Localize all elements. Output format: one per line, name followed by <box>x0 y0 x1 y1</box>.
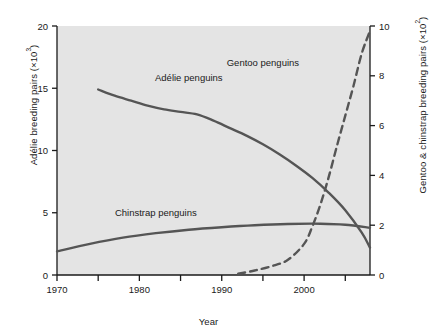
x-axis-tick-label: 1990 <box>211 284 232 295</box>
y-axis-right-tick-label: 4 <box>379 170 384 181</box>
y-axis-left-title-text: Adélie breeding pairs (×10 <box>28 52 39 166</box>
x-axis-tick-label: 2000 <box>294 284 315 295</box>
y-axis-right-title: Gentoo & chinstrap breeding pairs (×102) <box>412 0 430 230</box>
series-annotation-chinstrap-penguins: Chinstrap penguins <box>115 207 197 218</box>
y-axis-left-title-tail: ) <box>28 45 39 48</box>
series-annotation-ad-lie-penguins: Adélie penguins <box>155 72 223 83</box>
y-axis-left-tick-label: 5 <box>43 207 48 218</box>
y-axis-right-tick-label: 0 <box>379 270 384 281</box>
y-axis-right-title-text: Gentoo & chinstrap breeding pairs (×10 <box>417 24 428 194</box>
x-axis-title: Year <box>0 311 417 329</box>
y-axis-left-title: Adélie breeding pairs (×103) <box>23 15 41 195</box>
x-axis-tick-label: 1970 <box>46 284 67 295</box>
y-axis-right-title-exponent: 2 <box>414 20 421 24</box>
y-axis-right-tick-label: 8 <box>379 70 384 81</box>
x-axis-title-text: Year <box>199 316 219 327</box>
y-axis-right-tick-label: 10 <box>379 21 390 32</box>
y-axis-left-title-exponent: 3 <box>25 48 32 52</box>
y-axis-right-tick-label: 2 <box>379 220 384 231</box>
y-axis-right-tick-label: 6 <box>379 120 384 131</box>
y-axis-right-title-tail: ) <box>417 17 428 20</box>
series-annotation-gentoo-penguins: Gentoo penguins <box>227 57 300 68</box>
plot-background <box>57 26 370 275</box>
x-axis-tick-label: 1980 <box>129 284 150 295</box>
y-axis-left-tick-label: 0 <box>43 270 48 281</box>
